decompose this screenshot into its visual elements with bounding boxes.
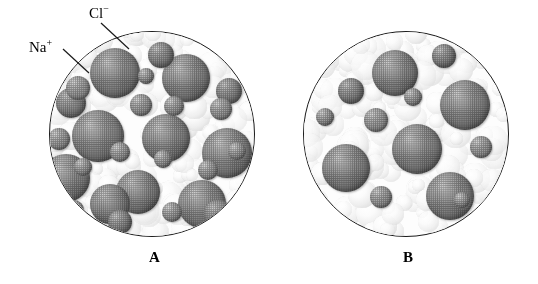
water-molecule (386, 33, 403, 50)
sodium-ion (162, 202, 182, 222)
sodium-ion (198, 160, 218, 180)
nacl-solution-figure: Cl− Na+ A B (0, 0, 538, 284)
sodium-ion (64, 200, 84, 220)
solution-panel-a (49, 31, 255, 237)
water-molecule (229, 31, 253, 55)
sodium-ion (404, 88, 422, 106)
water-molecule (496, 107, 509, 122)
sodium-symbol: Na (29, 39, 47, 55)
water-molecule (319, 202, 332, 215)
chloride-ion (108, 210, 132, 234)
panel-caption-b: B (403, 250, 413, 265)
chloride-ion (90, 48, 140, 98)
water-molecule (352, 36, 370, 54)
sodium-ion (66, 76, 90, 100)
water-molecule (130, 31, 144, 41)
chloride-ion (432, 44, 456, 68)
chloride-ion (392, 124, 442, 174)
sodium-ion (470, 136, 492, 158)
sodium-ion (164, 96, 184, 116)
water-molecule (303, 213, 329, 237)
sodium-charge: + (47, 37, 53, 48)
sodium-ion (154, 150, 172, 168)
water-molecule (53, 218, 74, 237)
chloride-charge: − (103, 3, 109, 14)
water-molecule (471, 41, 494, 64)
chloride-ion (440, 80, 490, 130)
sodium-ion (316, 108, 334, 126)
water-molecule (380, 223, 395, 237)
sodium-ion (370, 186, 392, 208)
chloride-ion (204, 200, 232, 228)
sodium-ion (74, 158, 92, 176)
chloride-ion (148, 42, 174, 68)
water-molecule (491, 180, 509, 201)
sodium-ion (210, 98, 232, 120)
sodium-ion (130, 94, 152, 116)
sodium-ion (138, 68, 154, 84)
sodium-ion (364, 108, 388, 132)
sodium-ion (454, 192, 470, 208)
water-molecule (490, 207, 505, 222)
water-molecule (412, 179, 424, 191)
sodium-ion (49, 128, 70, 150)
chloride-ion (338, 78, 364, 104)
chloride-symbol: Cl (89, 5, 103, 21)
water-molecule (303, 198, 316, 213)
chloride-ion-label: Cl− (89, 6, 109, 21)
panel-caption-a: A (149, 250, 160, 265)
sodium-ion-label: Na+ (29, 40, 52, 55)
solution-panel-b (303, 31, 509, 237)
water-molecule (502, 80, 509, 95)
sodium-ion (228, 142, 246, 160)
sodium-ion (110, 142, 130, 162)
chloride-ion (322, 144, 370, 192)
water-molecule (180, 32, 194, 46)
water-molecule (338, 220, 351, 233)
water-molecule (241, 223, 255, 237)
